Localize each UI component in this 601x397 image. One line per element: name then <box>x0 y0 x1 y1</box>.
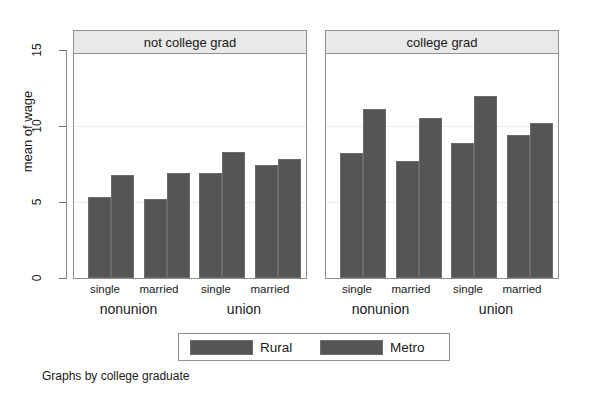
x-label-left-nonunion-single: single <box>75 283 135 295</box>
x-group-label-left-union: union <box>188 301 300 317</box>
legend-entry-metro[interactable]: Metro <box>320 339 440 356</box>
legend-label-metro: Metro <box>390 339 425 356</box>
y-axis-tick-5: 5 <box>0 195 66 209</box>
bar-college-nonunion-single-metro <box>363 109 386 278</box>
bar-college-union-single-rural <box>451 143 474 278</box>
y-axis-tick-10: 10 <box>0 119 66 133</box>
x-label-right-nonunion-married: married <box>380 283 442 295</box>
bar-college-union-single-metro <box>474 96 497 278</box>
y-axis-tick-0: 0 <box>0 271 66 285</box>
bar-college-nonunion-single-rural <box>340 153 363 278</box>
x-label-right-union-married: married <box>491 283 553 295</box>
bar-college-nonunion-married-metro <box>419 118 442 278</box>
x-label-left-union-single: single <box>186 283 246 295</box>
bar-not-college-union-single-rural <box>199 173 222 278</box>
panel-header-not-college-grad: not college grad <box>73 30 307 54</box>
y-axis-tick-mark-0 <box>59 278 66 279</box>
y-axis-tick-mark-10 <box>59 126 66 127</box>
bar-college-union-married-rural <box>507 135 530 278</box>
plot-area-college-grad <box>325 54 559 279</box>
x-group-label-right-union: union <box>440 301 552 317</box>
y-axis-line <box>66 50 67 279</box>
bar-college-union-married-metro <box>530 123 553 278</box>
bar-not-college-nonunion-married-metro <box>167 173 190 278</box>
legend-swatch-rural <box>190 340 253 355</box>
bar-not-college-union-single-metro <box>222 152 245 278</box>
x-group-label-right-nonunion: nonunion <box>323 301 438 317</box>
legend-swatch-metro <box>320 340 383 355</box>
plot-area-not-college-grad <box>73 54 307 279</box>
y-axis-tick-label-5: 5 <box>30 187 44 217</box>
bar-not-college-nonunion-single-metro <box>111 175 134 278</box>
y-axis-tick-label-15: 15 <box>30 35 44 65</box>
bar-not-college-union-married-rural <box>255 165 278 278</box>
y-axis-tick-15: 15 <box>0 43 66 57</box>
chart-figure: mean of wage 15 10 5 0 not college grad <box>0 0 601 397</box>
gridline-10 <box>74 126 306 127</box>
y-axis-tick-label-0: 0 <box>30 263 44 293</box>
y-axis-tick-label-10: 10 <box>30 111 44 141</box>
bar-not-college-nonunion-married-rural <box>144 199 167 278</box>
y-axis-tick-mark-5 <box>59 202 66 203</box>
legend-label-rural: Rural <box>260 339 292 356</box>
x-label-left-nonunion-married: married <box>128 283 190 295</box>
gridline-10 <box>326 126 558 127</box>
legend-entry-rural[interactable]: Rural <box>190 339 310 356</box>
y-axis-tick-mark-15 <box>59 50 66 51</box>
bar-not-college-nonunion-single-rural <box>88 197 111 278</box>
x-label-right-union-single: single <box>438 283 498 295</box>
chart-legend: Rural Metro <box>178 333 450 361</box>
bar-not-college-union-married-metro <box>278 159 301 278</box>
chart-footnote: Graphs by college graduate <box>42 369 189 383</box>
x-label-left-union-married: married <box>239 283 301 295</box>
bar-college-nonunion-married-rural <box>396 161 419 278</box>
x-label-right-nonunion-single: single <box>327 283 387 295</box>
panel-header-college-grad: college grad <box>325 30 559 54</box>
x-group-label-left-nonunion: nonunion <box>71 301 186 317</box>
